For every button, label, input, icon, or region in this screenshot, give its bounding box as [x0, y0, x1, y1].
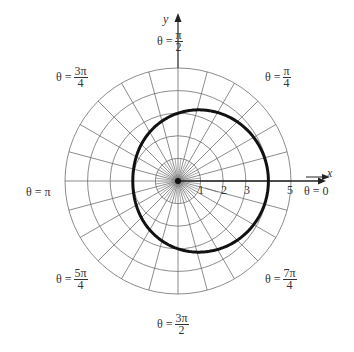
- theta-prefix: θ =: [157, 317, 173, 332]
- tick-dash: [205, 188, 218, 192]
- fraction: 7π4: [283, 268, 297, 291]
- theta-0-text: θ = 0: [304, 184, 329, 199]
- x-axis-label: x: [327, 166, 332, 181]
- grid-spoke: [178, 72, 207, 181]
- theta-prefix: θ =: [265, 70, 281, 85]
- grid-spoke: [69, 181, 178, 210]
- tick-5: 5: [287, 183, 293, 198]
- fraction: π2: [175, 30, 183, 53]
- grid-spoke: [98, 101, 178, 181]
- denominator: 4: [287, 280, 293, 291]
- angle-label-pi: θ = π: [26, 185, 51, 200]
- angle-label-7pi-over-4: θ = 7π4: [265, 268, 297, 291]
- y-axis-label: y: [163, 12, 168, 27]
- grid-spoke: [69, 152, 178, 181]
- denominator: 4: [78, 78, 84, 89]
- grid-spoke: [98, 181, 178, 261]
- grid-spoke: [178, 181, 287, 210]
- pole-dot: [175, 178, 181, 184]
- angle-label-3pi-over-2: θ = 3π2: [157, 313, 189, 336]
- fraction: 3π4: [74, 66, 88, 89]
- denominator: 2: [179, 325, 185, 336]
- grid-spoke: [178, 152, 287, 181]
- fraction: 5π4: [74, 268, 88, 291]
- denominator: 4: [78, 280, 84, 291]
- angle-label-pi-over-2: θ = π2: [157, 30, 183, 53]
- grid-spoke: [80, 181, 178, 238]
- denominator: 2: [176, 42, 182, 53]
- angle-label-0: θ = 0: [304, 184, 329, 199]
- theta-prefix: θ =: [56, 272, 72, 287]
- y-axis-arrow-icon: [175, 13, 182, 22]
- theta-pi-text: θ = π: [26, 185, 51, 200]
- angle-label-5pi-over-4: θ = 5π4: [56, 268, 88, 291]
- axes: [175, 13, 331, 192]
- theta-prefix: θ =: [265, 272, 281, 287]
- angle-label-3pi-over-4: θ = 3π4: [56, 66, 88, 89]
- tick-1: 1: [198, 183, 204, 198]
- denominator: 4: [284, 78, 290, 89]
- theta-prefix: θ =: [56, 70, 72, 85]
- theta-prefix: θ =: [157, 34, 173, 49]
- angle-label-pi-over-4: θ = π4: [265, 66, 291, 89]
- tick-2: 2: [221, 183, 227, 198]
- fraction: 3π2: [175, 313, 189, 336]
- fraction: π4: [283, 66, 291, 89]
- grid-spoke: [80, 125, 178, 182]
- tick-3: 3: [244, 183, 250, 198]
- grid-spoke: [178, 83, 235, 181]
